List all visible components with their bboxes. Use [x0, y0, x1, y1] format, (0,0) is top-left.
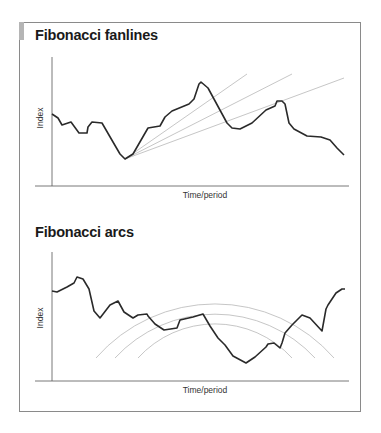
charts-canvas: Index Time/period Index Time/period [0, 0, 381, 433]
fanlines-chart: Index Time/period [35, 57, 349, 200]
x-axis-label: Time/period [183, 190, 228, 200]
fan-line [125, 78, 344, 159]
fan-lines [125, 74, 344, 159]
y-axis-label: Index [35, 107, 45, 129]
y-axis-label: Index [35, 307, 45, 329]
fan-line [125, 74, 247, 159]
index-line [52, 277, 345, 363]
fan-line [125, 74, 292, 159]
fibonacci-arc [96, 304, 334, 358]
arcs-chart: Index Time/period [35, 252, 349, 395]
x-axis-label: Time/period [183, 385, 228, 395]
fibonacci-arcs [96, 304, 334, 358]
index-line [52, 82, 344, 159]
